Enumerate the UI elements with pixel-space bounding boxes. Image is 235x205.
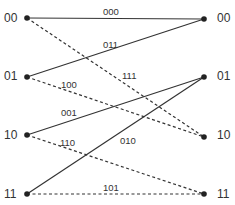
state-node-r11 — [201, 191, 207, 197]
state-node-l00 — [24, 15, 30, 21]
state-node-l11 — [24, 191, 30, 197]
state-node-r00 — [201, 16, 207, 22]
trellis-diagram — [0, 0, 235, 205]
edge-111-dashed — [27, 18, 204, 137]
edge-label-110: 110 — [60, 138, 75, 148]
right-state-label-00: 00 — [217, 12, 230, 24]
edge-000-solid — [27, 18, 204, 19]
edge-label-100: 100 — [61, 80, 77, 90]
left-state-label-00: 00 — [4, 12, 17, 24]
state-node-l01 — [24, 74, 30, 80]
edge-label-010: 010 — [120, 136, 136, 146]
edge-label-001: 001 — [61, 108, 77, 118]
left-state-label-10: 10 — [4, 129, 17, 141]
state-node-r10 — [201, 134, 207, 140]
left-state-label-11: 11 — [4, 188, 16, 200]
edge-label-111: 111 — [122, 71, 136, 81]
edge-010-solid — [27, 77, 204, 194]
right-state-label-10: 10 — [217, 129, 230, 141]
edge-label-011: 011 — [103, 40, 118, 50]
right-state-label-01: 01 — [217, 70, 230, 82]
right-state-label-11: 11 — [217, 188, 229, 200]
left-state-label-01: 01 — [4, 70, 17, 82]
edge-label-000: 000 — [103, 7, 119, 17]
edge-label-101: 101 — [103, 183, 119, 193]
state-node-r01 — [201, 74, 207, 80]
state-node-l10 — [24, 132, 30, 138]
